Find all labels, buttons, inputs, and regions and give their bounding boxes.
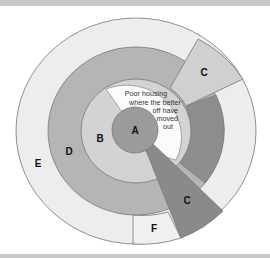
label-b: B [96, 133, 103, 144]
label-c-upper: C [200, 67, 207, 78]
label-e: E [35, 158, 42, 169]
label-c-lower: C [183, 195, 190, 206]
zone-diagram: A B D E C C F Poor housing where the bet… [0, 0, 270, 258]
label-a: A [131, 125, 138, 136]
label-d: D [65, 146, 72, 157]
annotation-line-5: out [163, 122, 173, 131]
bottom-border-bar [0, 254, 270, 258]
diagram-frame: A B D E C C F Poor housing where the bet… [0, 0, 270, 258]
label-f: F [151, 223, 157, 234]
annotation-line-1: Poor housing [125, 89, 167, 98]
